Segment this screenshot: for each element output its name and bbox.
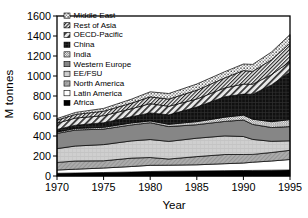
legend: Middle EastRest of AsiaOECD-PacificChina…: [64, 11, 132, 107]
legend-label-oecd-pacific: OECD-Pacific: [74, 30, 123, 39]
y-tick-label: 200: [33, 150, 51, 162]
x-axis-title: Year: [110, 199, 238, 211]
stacked-area-chart-figure: 0200400600800100012001400160019701975198…: [0, 0, 308, 218]
legend-swatch-india: [64, 52, 70, 57]
y-tick-label: 800: [33, 90, 51, 102]
y-tick-label: 1200: [27, 50, 51, 62]
legend-swatch-oecd-pacific: [64, 32, 70, 37]
legend-item-western-europe: Western Europe: [64, 60, 132, 69]
y-tick-label: 0: [45, 170, 51, 182]
x-tick-label: 1975: [92, 181, 116, 193]
legend-label-ee-fsu: EE/FSU: [74, 69, 103, 78]
y-axis-title: M tonnes: [3, 54, 15, 134]
legend-label-latin-america: Latin America: [74, 89, 123, 98]
legend-label-western-europe: Western Europe: [74, 60, 132, 69]
y-tick-label: 1600: [27, 10, 51, 22]
chart-canvas: 0200400600800100012001400160019701975198…: [0, 0, 308, 218]
x-tick-label: 1970: [45, 181, 69, 193]
legend-item-north-america: North America: [64, 79, 125, 88]
legend-item-oecd-pacific: OECD-Pacific: [64, 30, 123, 39]
legend-item-ee-fsu: EE/FSU: [64, 69, 103, 78]
legend-item-china: China: [64, 40, 95, 49]
legend-item-rest-of-asia: Rest of Asia: [64, 21, 117, 30]
legend-swatch-ee-fsu: [64, 71, 70, 76]
y-tick-label: 1000: [27, 70, 51, 82]
legend-swatch-latin-america: [64, 91, 70, 96]
legend-item-africa: Africa: [64, 98, 95, 107]
legend-label-rest-of-asia: Rest of Asia: [74, 21, 117, 30]
legend-label-middle-east: Middle East: [74, 11, 117, 20]
legend-label-india: India: [74, 50, 92, 59]
legend-swatch-africa: [64, 100, 70, 105]
legend-swatch-china: [64, 42, 70, 47]
legend-label-china: China: [74, 40, 95, 49]
legend-swatch-western-europe: [64, 62, 70, 67]
legend-swatch-north-america: [64, 81, 70, 86]
legend-item-latin-america: Latin America: [64, 89, 123, 98]
legend-label-north-america: North America: [74, 79, 125, 88]
y-tick-label: 1400: [27, 30, 51, 42]
x-tick-label: 1980: [138, 181, 162, 193]
x-tick-label: 1990: [231, 181, 255, 193]
legend-item-india: India: [64, 50, 91, 59]
x-tick-label: 1985: [185, 181, 209, 193]
y-tick-label: 400: [33, 130, 51, 142]
legend-swatch-rest-of-asia: [64, 23, 70, 28]
x-tick-label: 1995: [278, 181, 302, 193]
legend-label-africa: Africa: [74, 98, 95, 107]
y-tick-label: 600: [33, 110, 51, 122]
legend-swatch-middle-east: [64, 13, 70, 18]
